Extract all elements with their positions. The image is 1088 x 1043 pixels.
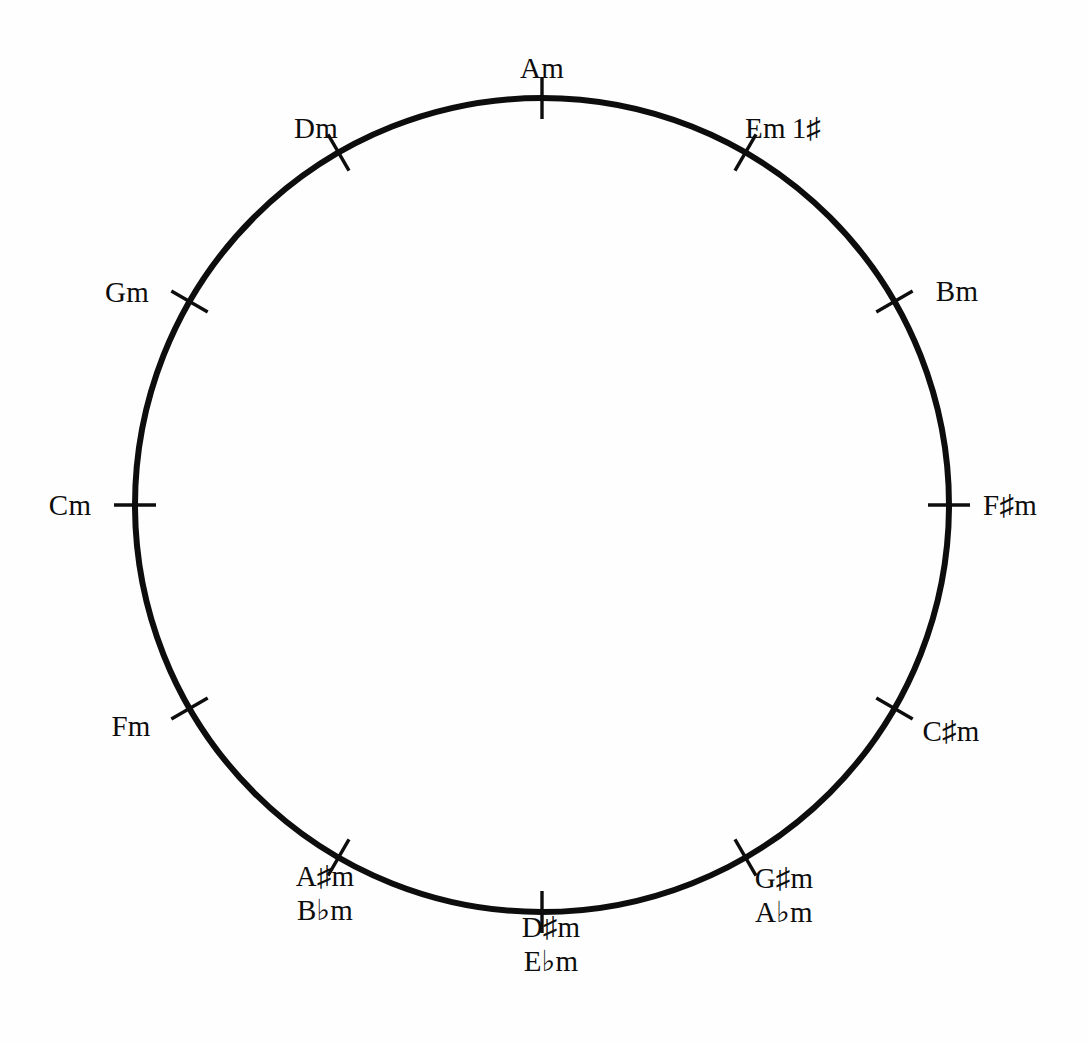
key-name-primary: F♯m <box>983 488 1037 522</box>
key-label-csharpm: C♯m <box>923 714 980 748</box>
key-name-primary: C♯m <box>923 714 980 748</box>
key-label-dsharpm: D♯mE♭m <box>522 910 581 978</box>
circle-of-fifths-figure: AmEm1♯BmF♯mC♯mG♯mA♭mD♯mE♭mA♯mB♭mFmCmGmDm <box>0 0 1088 1043</box>
key-name-enharmonic: E♭m <box>522 944 581 978</box>
key-name-primary: Gm <box>105 275 149 309</box>
key-name-enharmonic: B♭m <box>296 893 355 927</box>
circle-diagram-canvas <box>0 0 1088 1043</box>
key-label-gsharpm: G♯mA♭m <box>755 861 814 929</box>
key-label-em: Em1♯ <box>745 111 821 145</box>
key-name-primary: Cm <box>49 488 91 522</box>
key-label-gm: Gm <box>105 275 149 309</box>
key-label-fm: Fm <box>111 709 150 743</box>
key-name-primary: Am <box>520 51 564 85</box>
tick-mark-gm <box>171 291 207 312</box>
key-name-primary: G♯m <box>755 861 814 895</box>
key-label-bm: Bm <box>936 274 978 308</box>
key-name-primary: Em1♯ <box>745 111 821 145</box>
key-name-primary: A♯m <box>296 859 355 893</box>
key-label-dm: Dm <box>294 111 338 145</box>
key-name-primary: D♯m <box>522 910 581 944</box>
key-label-cm: Cm <box>49 488 91 522</box>
tick-mark-gsharpm <box>735 839 756 875</box>
tick-mark-fm <box>171 698 207 719</box>
key-label-fsharpm: F♯m <box>983 488 1037 522</box>
tick-mark-csharpm <box>876 698 912 719</box>
key-label-am: Am <box>520 51 564 85</box>
key-name-primary: Bm <box>936 274 978 308</box>
key-name-enharmonic: A♭m <box>755 895 814 929</box>
key-name-primary: Dm <box>294 111 338 145</box>
key-label-asharpm: A♯mB♭m <box>296 859 355 927</box>
tick-marks-group <box>114 77 970 933</box>
key-signature-em: 1♯ <box>792 112 821 144</box>
tick-mark-bm <box>876 291 912 312</box>
circle-outline <box>135 98 949 912</box>
key-name-primary: Fm <box>111 709 150 743</box>
